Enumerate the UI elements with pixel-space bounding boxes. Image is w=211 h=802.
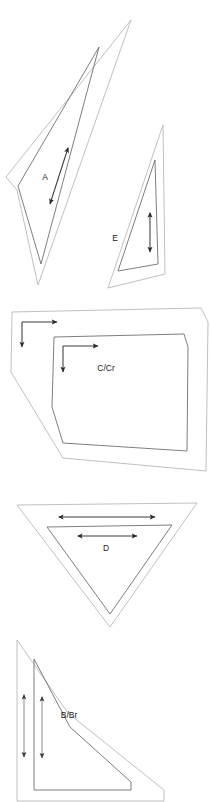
label-e: E: [112, 233, 118, 243]
shape-d-outer-outline: [17, 503, 197, 627]
shape-a-outer-outline: [6, 20, 131, 285]
shape-b-br-outer-outline: [17, 640, 164, 801]
shape-e-inner-outline: [118, 160, 158, 271]
panel-d: D: [17, 503, 197, 627]
shape-a-inner-outline: [18, 47, 99, 264]
panel-b-br: B/Br: [17, 640, 164, 801]
dimension-diagram-figure: A E C/Cr: [0, 0, 211, 802]
diagram-root: A E C/Cr: [0, 0, 211, 802]
panel-c-cr: C/Cr: [11, 308, 208, 471]
label-c-cr: C/Cr: [97, 363, 115, 373]
shape-c-cr-outer-outline: [11, 308, 208, 471]
label-d: D: [103, 543, 109, 553]
panel-a-e: A E: [6, 20, 165, 288]
shape-c-cr-inner-outline: [52, 334, 188, 451]
label-b-br: B/Br: [61, 710, 78, 720]
label-a: A: [42, 172, 48, 182]
